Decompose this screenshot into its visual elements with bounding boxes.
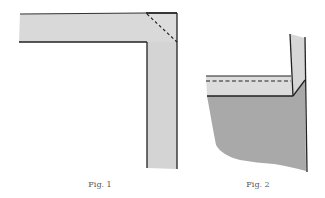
fig2-caption: Fig. 2 — [246, 180, 269, 189]
fig1-drawing — [0, 0, 325, 198]
fig2-hem-band — [206, 76, 293, 96]
fig1-caption: Fig. 1 — [88, 180, 111, 189]
figure-1 — [0, 0, 325, 198]
fig1-vertical-strip — [147, 42, 177, 169]
